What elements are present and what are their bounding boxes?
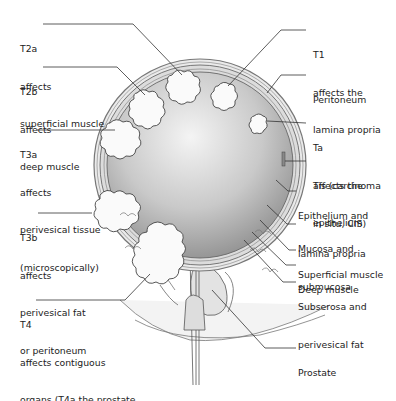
label-t4-line: organs (T4a the prostate,	[20, 394, 138, 401]
stage-t2a: T2a	[20, 43, 104, 56]
stage-t4: T4	[20, 319, 138, 332]
label-t3b-line: affects	[20, 270, 86, 283]
stage-t2b: T2b	[20, 86, 79, 99]
label-subserosa-line: Subserosa and	[298, 301, 367, 314]
label-t4: T4 affects contiguous organs (T4a the pr…	[20, 294, 138, 401]
label-prostate-line: Prostate	[298, 367, 336, 380]
label-prostate: Prostate	[298, 342, 336, 392]
label-peritoneum-line: Peritoneum	[313, 94, 366, 107]
label-t3a-line: affects	[20, 187, 101, 200]
label-peritoneum: Peritoneum	[313, 69, 366, 119]
stage-t3b: T3b	[20, 232, 86, 245]
stage-t3a: T3a	[20, 149, 101, 162]
label-t4-line: affects contiguous	[20, 357, 138, 370]
stage-ta: Ta	[313, 142, 363, 155]
stage-t1: T1	[313, 49, 381, 62]
tis-marker	[282, 152, 285, 166]
